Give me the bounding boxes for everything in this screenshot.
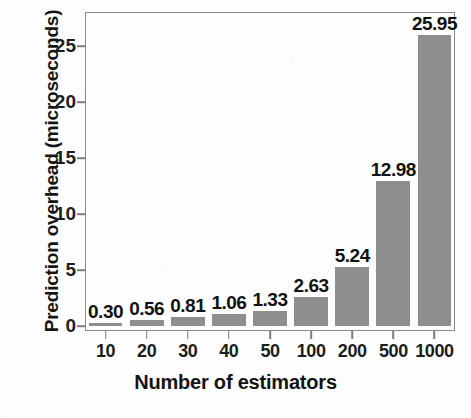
chart-page: Prediction overhead (microseconds) 05101… <box>0 0 471 418</box>
bar-value-label-40: 1.06 <box>211 292 246 314</box>
x-tick-mark-40 <box>228 331 230 339</box>
bar-20 <box>130 320 164 326</box>
bar-500 <box>376 181 410 326</box>
x-tick-mark-1000 <box>434 331 436 339</box>
x-tick-label-50: 50 <box>260 341 279 362</box>
bar-value-label-500: 12.98 <box>371 159 416 181</box>
y-tick-label-25: 25 <box>36 35 76 57</box>
bar-value-label-200: 5.24 <box>335 245 370 267</box>
x-tick-mark-100 <box>310 331 312 339</box>
y-tick-label-20: 20 <box>36 91 76 113</box>
y-tick-label-15: 15 <box>36 147 76 169</box>
bar-50 <box>253 311 287 326</box>
y-tick-label-10: 10 <box>36 203 76 225</box>
x-tick-mark-30 <box>187 331 189 339</box>
x-tick-label-1000: 1000 <box>415 341 453 362</box>
x-tick-mark-500 <box>393 331 395 339</box>
bar-40 <box>212 314 246 326</box>
x-tick-mark-20 <box>146 331 148 339</box>
bar-100 <box>294 297 328 326</box>
plot-area: 0.300.560.811.061.332.635.2412.9825.95 <box>85 12 455 331</box>
bar-10 <box>89 323 123 326</box>
x-tick-mark-50 <box>269 331 271 339</box>
bar-200 <box>335 267 369 326</box>
x-tick-mark-10 <box>105 331 107 339</box>
y-tick-label-5: 5 <box>36 259 76 281</box>
bar-value-label-10: 0.30 <box>88 301 123 323</box>
x-tick-label-10: 10 <box>96 341 115 362</box>
bar-value-label-20: 0.56 <box>129 298 164 320</box>
y-tick-label-0: 0 <box>36 315 76 337</box>
bar-value-label-100: 2.63 <box>294 275 329 297</box>
bar-30 <box>171 317 205 326</box>
x-tick-label-30: 30 <box>178 341 197 362</box>
x-tick-label-100: 100 <box>297 341 326 362</box>
bar-value-label-30: 0.81 <box>170 295 205 317</box>
x-tick-label-20: 20 <box>137 341 156 362</box>
bar-value-label-50: 1.33 <box>253 289 288 311</box>
x-tick-mark-200 <box>351 331 353 339</box>
x-axis-title: Number of estimators <box>0 371 471 394</box>
bar-value-label-1000: 25.95 <box>412 13 457 35</box>
x-tick-label-200: 200 <box>338 341 367 362</box>
x-tick-label-40: 40 <box>219 341 238 362</box>
bar-1000 <box>418 35 452 326</box>
x-tick-label-500: 500 <box>379 341 408 362</box>
